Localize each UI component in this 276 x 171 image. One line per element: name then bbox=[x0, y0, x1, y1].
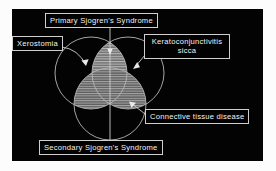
region-secondary-sjogrens bbox=[12, 9, 263, 161]
label-secondary-sjogrens-syndrome: Secondary Sjogren's Syndrome bbox=[39, 140, 163, 155]
label-xerostomia: Xerostomia bbox=[12, 36, 63, 51]
label-connective-tissue-disease: Connective tissue disease bbox=[145, 109, 249, 124]
venn-diagram bbox=[12, 9, 263, 161]
label-primary-sjogrens-syndrome: Primary Sjogren's Syndrome bbox=[45, 13, 158, 28]
label-kcs-line1: Keratoconjunctivitis bbox=[152, 37, 222, 46]
arrowhead-xerostomia bbox=[81, 59, 88, 66]
diagram-panel: Primary Sjogren's Syndrome Xerostomia Ke… bbox=[12, 9, 263, 161]
label-kcs-line2: sicca bbox=[178, 46, 197, 55]
label-keratoconjunctivitis-sicca: Keratoconjunctivitis sicca bbox=[144, 34, 230, 59]
screenshot-root: Primary Sjogren's Syndrome Xerostomia Ke… bbox=[0, 0, 276, 171]
leader-line-xerostomia bbox=[62, 47, 86, 65]
arrowhead-kcs bbox=[133, 62, 140, 69]
